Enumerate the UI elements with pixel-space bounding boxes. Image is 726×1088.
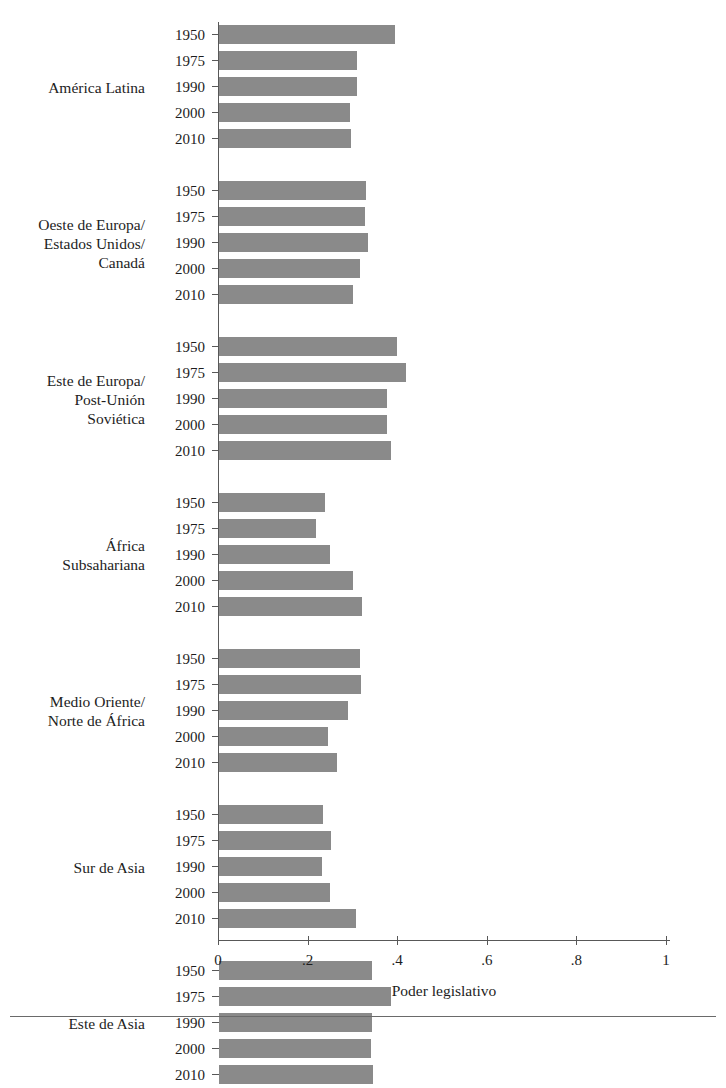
- y-axis-tick: [212, 450, 219, 451]
- bar: [219, 25, 395, 44]
- bar: [219, 649, 360, 668]
- bar-row: 1990: [0, 74, 726, 100]
- bar: [219, 831, 331, 850]
- y-axis-tick: [212, 346, 219, 347]
- bar-row: 1975: [0, 828, 726, 854]
- year-tick-label: 1950: [145, 802, 205, 828]
- bar-row: 1950: [0, 646, 726, 672]
- x-axis-tick-label: 0: [198, 952, 238, 969]
- bar: [219, 1039, 371, 1058]
- y-axis-tick: [212, 398, 219, 399]
- bar-row: 2000: [0, 568, 726, 594]
- bar-row: 1990: [0, 1010, 726, 1036]
- year-tick-label: 1950: [145, 178, 205, 204]
- y-axis-tick: [212, 424, 219, 425]
- year-tick-label: 2010: [145, 282, 205, 308]
- year-tick-label: 2010: [145, 1062, 205, 1088]
- y-axis-tick: [212, 1022, 219, 1023]
- y-axis-tick: [212, 1074, 219, 1075]
- y-axis-tick: [212, 372, 219, 373]
- bar-row: 2010: [0, 906, 726, 932]
- bar-row: 1950: [0, 490, 726, 516]
- bar-row: 2000: [0, 880, 726, 906]
- bar: [219, 103, 350, 122]
- year-tick-label: 1975: [145, 672, 205, 698]
- bar: [219, 207, 365, 226]
- year-tick-label: 2010: [145, 750, 205, 776]
- bar-group: Este de Asia19501975199020002010: [0, 958, 726, 1088]
- bar-row: 1990: [0, 230, 726, 256]
- x-axis-tick-label: 1: [646, 952, 686, 969]
- year-tick-label: 1990: [145, 854, 205, 880]
- x-axis-tick: [666, 936, 667, 945]
- y-axis-tick: [212, 710, 219, 711]
- bar: [219, 181, 366, 200]
- year-tick-label: 1950: [145, 490, 205, 516]
- y-axis-tick: [212, 86, 219, 87]
- bar: [219, 545, 330, 564]
- bar-row: 2010: [0, 126, 726, 152]
- bar-row: 1975: [0, 48, 726, 74]
- y-axis-tick: [212, 580, 219, 581]
- y-axis-tick: [212, 866, 219, 867]
- year-tick-label: 1975: [145, 204, 205, 230]
- bar: [219, 571, 353, 590]
- bar-row: 2000: [0, 100, 726, 126]
- bar: [219, 441, 391, 460]
- year-tick-label: 2000: [145, 568, 205, 594]
- bar-row: 1975: [0, 672, 726, 698]
- year-tick-label: 1975: [145, 516, 205, 542]
- y-axis-tick: [212, 502, 219, 503]
- year-tick-label: 2000: [145, 256, 205, 282]
- year-tick-label: 2010: [145, 438, 205, 464]
- bar: [219, 363, 406, 382]
- bar: [219, 883, 330, 902]
- year-tick-label: 2000: [145, 880, 205, 906]
- y-axis-tick: [212, 138, 219, 139]
- bar-group: Sur de Asia19501975199020002010: [0, 802, 726, 932]
- bar-row: 2000: [0, 1036, 726, 1062]
- bar: [219, 493, 325, 512]
- bar-row: 2010: [0, 594, 726, 620]
- bar-group: Oeste de Europa/ Estados Unidos/ Canadá1…: [0, 178, 726, 308]
- y-axis-tick: [212, 606, 219, 607]
- y-axis-tick: [212, 34, 219, 35]
- x-axis-tick: [218, 936, 219, 945]
- bar-row: 1950: [0, 334, 726, 360]
- year-tick-label: 1990: [145, 230, 205, 256]
- year-tick-label: 1990: [145, 698, 205, 724]
- bar-group: América Latina19501975199020002010: [0, 22, 726, 152]
- year-tick-label: 1975: [145, 360, 205, 386]
- year-tick-label: 2000: [145, 100, 205, 126]
- bar-row: 1950: [0, 22, 726, 48]
- bar-row: 2010: [0, 282, 726, 308]
- bar-row: 2010: [0, 438, 726, 464]
- y-axis-tick: [212, 970, 219, 971]
- bar-row: 1950: [0, 958, 726, 984]
- bar: [219, 753, 337, 772]
- bar-row: 2000: [0, 412, 726, 438]
- y-axis-tick: [212, 892, 219, 893]
- bar: [219, 77, 357, 96]
- year-tick-label: 2010: [145, 594, 205, 620]
- y-axis-tick: [212, 294, 219, 295]
- bar: [219, 675, 361, 694]
- bar: [219, 51, 357, 70]
- bar-row: 1975: [0, 204, 726, 230]
- x-axis-tick: [397, 936, 398, 945]
- year-tick-label: 1990: [145, 74, 205, 100]
- year-tick-label: 1950: [145, 958, 205, 984]
- bar-row: 2000: [0, 724, 726, 750]
- y-axis-tick: [212, 554, 219, 555]
- bar-row: 2000: [0, 256, 726, 282]
- bar: [219, 909, 356, 928]
- bar: [219, 285, 353, 304]
- bar-row: 1990: [0, 386, 726, 412]
- bar-group: África Subsahariana19501975199020002010: [0, 490, 726, 620]
- y-axis-tick: [212, 190, 219, 191]
- bar: [219, 259, 360, 278]
- x-axis-line: [218, 940, 670, 941]
- year-tick-label: 1990: [145, 542, 205, 568]
- bar: [219, 727, 328, 746]
